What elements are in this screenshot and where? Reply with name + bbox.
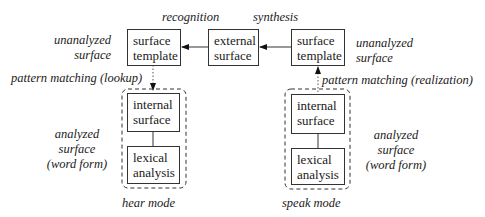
right-lexical-analysis-box: lexical analysis [291,148,345,185]
right-analyzed-label: analyzed surface (word form) [361,128,431,173]
right-internal-surface-box: internal surface [291,94,345,134]
box-text: lexical [297,152,344,167]
box-text: surface [214,48,258,63]
label-line: analyzed [361,128,431,143]
realization-label: pattern matching (realization) [322,73,473,88]
box-text: lexical [133,150,179,165]
hear-mode-label: hear mode [122,196,175,211]
box-text: external [214,33,258,48]
synthesis-label: synthesis [253,10,298,25]
right-surface-template-box: surface template [291,29,345,66]
label-line: (word form) [42,157,112,172]
label-line: unanalyzed [50,33,111,48]
recognition-label: recognition [162,10,219,25]
external-surface-box: external surface [208,29,259,66]
label-line: surface [361,143,431,158]
box-text: analysis [133,165,179,180]
left-unanalyzed-label: unanalyzed surface [50,33,111,63]
box-text: surface [297,113,344,128]
left-lexical-analysis-box: lexical analysis [127,146,180,184]
label-line: unanalyzed [356,36,413,51]
box-text: internal [297,98,344,113]
left-internal-surface-box: internal surface [127,93,180,132]
label-line: surface [50,48,111,63]
box-text: surface [297,33,344,48]
right-unanalyzed-label: unanalyzed surface [356,36,413,66]
lookup-label: pattern matching (lookup) [11,71,142,86]
speak-mode-label: speak mode [282,196,341,211]
box-text: surface [133,112,179,127]
box-text: analysis [297,167,344,182]
box-text: internal [133,97,179,112]
box-text: template [297,48,344,63]
label-line: surface [42,142,112,157]
left-analyzed-label: analyzed surface (word form) [42,127,112,172]
label-line: surface [356,51,413,66]
box-text: template [133,48,180,63]
left-surface-template-box: surface template [127,29,181,66]
label-line: (word form) [361,158,431,173]
label-line: analyzed [42,127,112,142]
box-text: surface [133,33,180,48]
